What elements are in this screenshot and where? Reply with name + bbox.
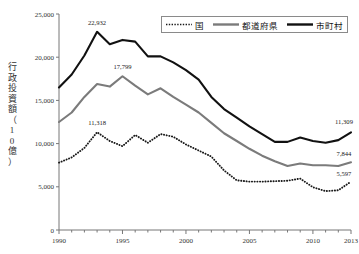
y-axis-title-char: 投 [1, 83, 23, 94]
y-axis-title-char: 1 [1, 125, 23, 136]
y-axis-title-char: 資 [1, 94, 23, 105]
legend-item-shichoson[interactable]: 市町村 [287, 19, 343, 31]
y-axis-title-char: 額 [1, 104, 23, 115]
data-label-17,799: 17,799 [113, 63, 132, 70]
data-label-5,597: 5,597 [337, 170, 353, 177]
legend-swatch-black [287, 20, 313, 29]
data-label-22,932: 22,932 [88, 19, 106, 26]
data-label-11,318: 11,318 [88, 119, 107, 126]
legend-label: 市町村 [316, 19, 343, 31]
chart-container: 行 政 投 資 額 （ 1 0 億 ） 05,00010,00015,00020… [0, 0, 359, 254]
y-axis-title-char: 億 [1, 146, 23, 157]
y-tick-label: 5,000 [38, 183, 54, 191]
y-axis-title: 行 政 投 資 額 （ 1 0 億 ） [1, 62, 23, 167]
y-tick-label: 20,000 [35, 54, 55, 62]
y-tick-label: 25,000 [35, 11, 55, 19]
legend-swatch-gray [213, 20, 239, 29]
x-tick-label: 2005 [242, 237, 257, 245]
series-line-国 [59, 132, 351, 191]
x-tick-label: 2013 [344, 237, 359, 245]
y-axis-title-char: 政 [1, 73, 23, 84]
y-axis-title-char: 行 [1, 62, 23, 73]
data-label-11,309: 11,309 [335, 118, 354, 125]
legend-item-todofuken[interactable]: 都道府県 [213, 19, 278, 31]
y-tick-label: 15,000 [35, 97, 55, 105]
line-chart-plot: 05,00010,00015,00020,00025,0001990199520… [0, 0, 359, 254]
x-tick-label: 2010 [306, 237, 321, 245]
y-axis-title-char: 0 [1, 136, 23, 147]
y-axis-title-char: （ [1, 115, 23, 126]
data-label-7,844: 7,844 [337, 150, 353, 157]
legend-swatch-dotted [166, 20, 192, 29]
y-tick-label: 10,000 [35, 140, 55, 148]
x-tick-label: 2000 [179, 237, 194, 245]
x-tick-label: 1990 [52, 237, 67, 245]
y-tick-label: 0 [51, 227, 55, 235]
chart-legend: 国 都道府県 市町村 [161, 16, 348, 33]
legend-item-koku[interactable]: 国 [166, 19, 204, 31]
legend-label: 国 [195, 19, 204, 31]
x-tick-label: 1995 [115, 237, 130, 245]
y-axis-title-char: ） [1, 157, 23, 168]
legend-label: 都道府県 [242, 19, 278, 31]
